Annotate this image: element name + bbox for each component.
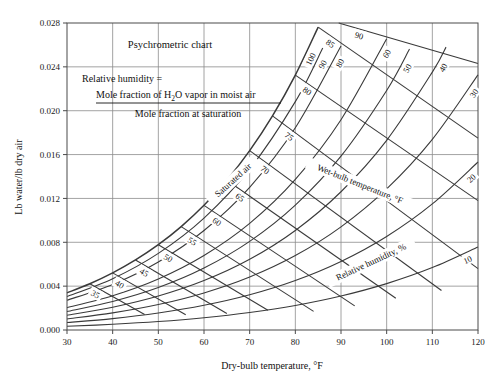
y-tick-label: 0.016 <box>40 150 61 160</box>
x-tick-label: 90 <box>337 337 347 347</box>
formula-denominator: Mole fraction at saturation <box>135 108 241 119</box>
x-tick-label: 120 <box>471 337 485 347</box>
formula-numerator-part2: O vapor in moist air <box>175 89 256 100</box>
x-tick-label: 60 <box>200 337 210 347</box>
x-axis-title: Dry-bulb temperature, °F <box>221 360 323 371</box>
grid-lines <box>67 23 478 330</box>
wet-bulb-line-90 <box>339 23 478 64</box>
wet-bulb-label-60: 60 <box>209 213 226 229</box>
y-tick-label: 0.008 <box>40 238 61 248</box>
y-axis-title: Lb water/lb dry air <box>13 139 24 215</box>
formula-lead: Relative humidity = <box>82 73 162 84</box>
formula-numerator: Mole fraction of H2O vapor in moist air <box>96 89 256 103</box>
relative-humidity-label-30: 30 <box>465 85 481 102</box>
y-tick-label: 0.020 <box>40 106 61 116</box>
x-tick-label: 100 <box>380 337 394 347</box>
relative-humidity-formula: Relative humidity = Mole fraction of H2O… <box>82 73 281 119</box>
relative-humidity-label-80: 80 <box>332 54 348 71</box>
annotation-text: Relative humidity, % <box>334 241 408 282</box>
formula-numerator-part1: Mole fraction of H <box>96 89 171 100</box>
relative-humidity-curve-10 <box>67 247 478 326</box>
psychrometric-chart-figure: 304050607080901001101200.0000.0040.0080.… <box>0 0 499 380</box>
relative-humidity-label-60: 60 <box>378 45 394 62</box>
inline-annotations: Saturated airWet-bulb temperature, °FRel… <box>205 154 417 288</box>
wet-bulb-line-40 <box>113 273 186 315</box>
x-tick-label: 50 <box>154 337 164 347</box>
wet-bulb-label-85: 85 <box>322 35 339 51</box>
relative-humidity-label-50: 50 <box>399 60 415 77</box>
y-tick-label: 0.024 <box>40 62 61 72</box>
y-tick-label: 0.000 <box>40 325 61 335</box>
plot-border <box>67 23 478 330</box>
x-tick-label: 70 <box>245 337 255 347</box>
x-tick-label: 40 <box>108 337 118 347</box>
relative-humidity-label-40: 40 <box>435 59 451 76</box>
x-tick-label: 110 <box>426 337 440 347</box>
y-tick-label: 0.012 <box>40 194 60 204</box>
psychrometric-chart-svg: 304050607080901001101200.0000.0040.0080.… <box>0 0 499 380</box>
wet-bulb-line-85 <box>318 27 478 138</box>
annotation-text: Saturated air <box>213 161 254 199</box>
y-tick-label: 0.004 <box>40 281 61 291</box>
y-tick-label: 0.028 <box>40 18 61 28</box>
relative-humidity-label-20: 20 <box>463 169 480 186</box>
plot-frame <box>67 23 478 330</box>
x-tick-label: 30 <box>63 337 73 347</box>
chart-title: Psychrometric chart <box>128 39 212 50</box>
x-tick-label: 80 <box>291 337 301 347</box>
